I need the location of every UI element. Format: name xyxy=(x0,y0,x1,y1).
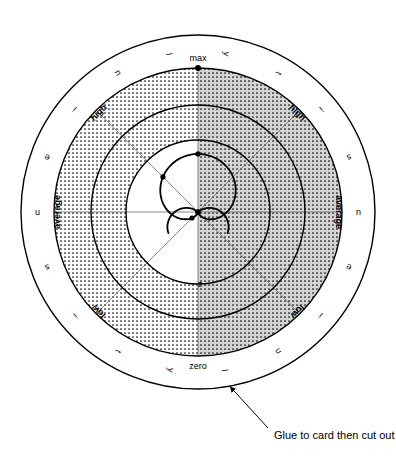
ring-letter-left-2: i xyxy=(71,105,79,114)
max-label: max xyxy=(189,53,207,63)
band-label-average-left: average xyxy=(52,195,62,229)
ring-letter-left-7: t xyxy=(113,348,123,356)
ring-letter-left-0: l xyxy=(164,52,174,56)
polar-dial-figure: maxzerozhighhighaverageaveragelowlowluie… xyxy=(0,0,396,464)
ring-letter-right-6: i xyxy=(317,311,325,320)
ring-letter-right-3: s xyxy=(345,152,353,163)
caption-leader-arrow xyxy=(231,387,268,428)
center-mark-label: z xyxy=(198,279,203,289)
ring-letter-left-5: s xyxy=(43,262,51,273)
caption-label: Glue to card then cut out xyxy=(274,429,394,441)
zero-label: zero xyxy=(189,361,207,371)
band-label-average-right: average xyxy=(334,195,344,229)
max-node xyxy=(195,65,201,71)
ring-letter-left-3: e xyxy=(43,152,51,163)
ring-letter-right-1: t xyxy=(274,70,284,78)
ring-letter-left-1: u xyxy=(112,69,123,78)
ring-letter-right-2: i xyxy=(317,105,325,114)
ring-letter-right-0: y xyxy=(221,51,232,58)
dial-svg: maxzerozhighhighaverageaveragelowlowluie… xyxy=(0,0,396,464)
ring-letter-left-6: i xyxy=(71,311,79,320)
ring-letter-right-4: u xyxy=(356,208,361,218)
caption-layer: Glue to card then cut out xyxy=(231,387,395,441)
ring-letter-left-8: y xyxy=(165,367,176,374)
ring-letter-right-7: n xyxy=(272,347,283,356)
ring-letter-right-5: e xyxy=(345,262,353,273)
ring-letter-left-4: n xyxy=(35,208,40,218)
ring-letter-right-8: l xyxy=(220,368,230,372)
